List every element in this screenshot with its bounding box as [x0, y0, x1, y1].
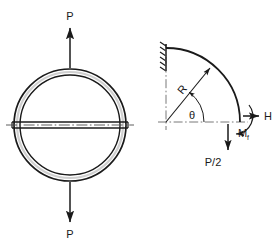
label-vertical-force-P2: P/2 — [205, 156, 222, 168]
figure-canvas: P P R — [0, 0, 278, 245]
right-panel-quarter-arc-diagram: R θ H M f P/2 — [158, 42, 272, 168]
fixed-support-hatching — [160, 42, 166, 71]
label-moment-M: M — [238, 127, 247, 139]
label-horizontal-force-H: H — [264, 110, 272, 122]
label-radius-R: R — [175, 82, 189, 96]
left-panel-ring-diagram: P P — [6, 10, 134, 240]
label-load-top-P: P — [66, 10, 73, 22]
label-load-bottom-P: P — [66, 228, 73, 240]
label-moment-subscript: f — [247, 134, 249, 141]
label-angle-theta: θ — [189, 109, 195, 121]
engineering-diagram-svg: P P R — [0, 0, 278, 245]
